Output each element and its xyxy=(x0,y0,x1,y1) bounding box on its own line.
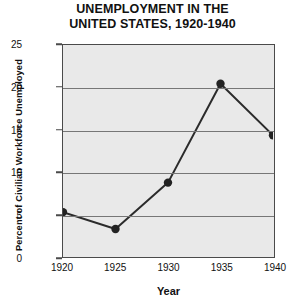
x-tick-label-1940: 1940 xyxy=(250,262,300,273)
data-point-1925 xyxy=(111,225,119,233)
y-axis-label: Percent of Civilian Workforce Unemployed xyxy=(14,40,24,270)
chart-title-line-2: UNITED STATES, 1920-1940 xyxy=(0,17,305,32)
data-point-1935 xyxy=(216,80,224,88)
y-tick-label-15: 15 xyxy=(0,124,22,135)
unemployment-line-chart: UNEMPLOYMENT IN THE UNITED STATES, 1920-… xyxy=(0,0,305,308)
y-tick-label-20: 20 xyxy=(0,81,22,92)
data-point-1930 xyxy=(164,178,172,186)
y-tick-label-0: 0 xyxy=(0,253,22,264)
x-tick-label-1935: 1935 xyxy=(197,262,247,273)
chart-title-line-1: UNEMPLOYMENT IN THE xyxy=(0,2,305,17)
y-tick-label-10: 10 xyxy=(0,167,22,178)
x-tick-label-1925: 1925 xyxy=(90,262,140,273)
data-point-1920 xyxy=(63,208,67,216)
x-axis-label: Year xyxy=(62,285,275,297)
x-tick-label-1920: 1920 xyxy=(37,262,87,273)
x-tick-label-1930: 1930 xyxy=(144,262,194,273)
series-plot xyxy=(63,45,273,256)
y-tick-label-5: 5 xyxy=(0,210,22,221)
series-line-unemployment xyxy=(63,84,273,229)
plot-area xyxy=(62,44,275,258)
y-tick-label-25: 25 xyxy=(0,39,22,50)
chart-title: UNEMPLOYMENT IN THE UNITED STATES, 1920-… xyxy=(0,2,305,31)
